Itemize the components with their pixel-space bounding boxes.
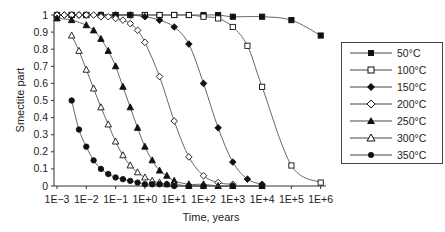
x-tick-label: 1E+5 <box>279 193 304 205</box>
y-tick-label: 0 <box>42 180 48 192</box>
legend-label: 50°C <box>397 45 420 61</box>
x-tick-label: 1E+2 <box>191 193 216 205</box>
y-tick-label: 0.9 <box>33 26 48 38</box>
y-tick-label: 0.7 <box>33 60 48 72</box>
legend-item-300c: 300°C <box>342 130 442 146</box>
triangle-open-marker-icon <box>346 130 396 146</box>
legend-label: 300°C <box>397 130 426 146</box>
y-axis-title: Smectite part <box>14 68 26 133</box>
y-tick-label: 0.1 <box>33 162 48 174</box>
square-open-marker-icon <box>346 62 396 78</box>
y-tick-label: 0.4 <box>33 111 48 123</box>
axes: 00.10.20.30.40.50.60.70.80.911E−31E−21E−… <box>33 9 333 206</box>
legend-item-350c: 350°C <box>342 147 442 163</box>
x-axis-title: Time, years <box>182 211 240 223</box>
x-tick-label: 1E+0 <box>132 193 157 205</box>
y-tick-label: 0.6 <box>33 77 48 89</box>
y-tick-label: 0.5 <box>33 94 48 106</box>
y-tick-label: 1 <box>42 9 48 21</box>
legend-item-50c: 50°C <box>342 45 442 61</box>
x-tick-label: 1E+6 <box>308 193 333 205</box>
legend: 50°C 100°C 150°C 200°C 250°C 300°C 350°C <box>341 42 443 164</box>
legend-label: 200°C <box>397 96 426 112</box>
circle-filled-marker-icon <box>346 147 396 163</box>
plot-series <box>54 12 324 189</box>
legend-item-200c: 200°C <box>342 96 442 112</box>
diamond-filled-marker-icon <box>346 79 396 95</box>
legend-item-250c: 250°C <box>342 113 442 129</box>
x-tick-label: 1E−2 <box>74 193 99 205</box>
triangle-filled-marker-icon <box>346 113 396 129</box>
y-tick-label: 0.2 <box>33 145 48 157</box>
square-filled-marker-icon <box>346 45 396 61</box>
y-tick-label: 0.8 <box>33 43 48 55</box>
x-tick-label: 1E−1 <box>103 193 128 205</box>
x-tick-label: 1E+3 <box>220 193 245 205</box>
x-tick-label: 1E−3 <box>45 193 70 205</box>
legend-label: 150°C <box>397 79 426 95</box>
legend-label: 100°C <box>397 62 426 78</box>
legend-item-150c: 150°C <box>342 79 442 95</box>
series-300c <box>68 32 206 188</box>
legend-item-100c: 100°C <box>342 62 442 78</box>
x-tick-label: 1E+4 <box>250 193 275 205</box>
y-tick-label: 0.3 <box>33 128 48 140</box>
legend-label: 250°C <box>397 113 426 129</box>
diamond-open-marker-icon <box>346 96 396 112</box>
legend-label: 350°C <box>397 147 426 163</box>
x-tick-label: 1E+1 <box>162 193 187 205</box>
series-150c <box>54 12 266 188</box>
